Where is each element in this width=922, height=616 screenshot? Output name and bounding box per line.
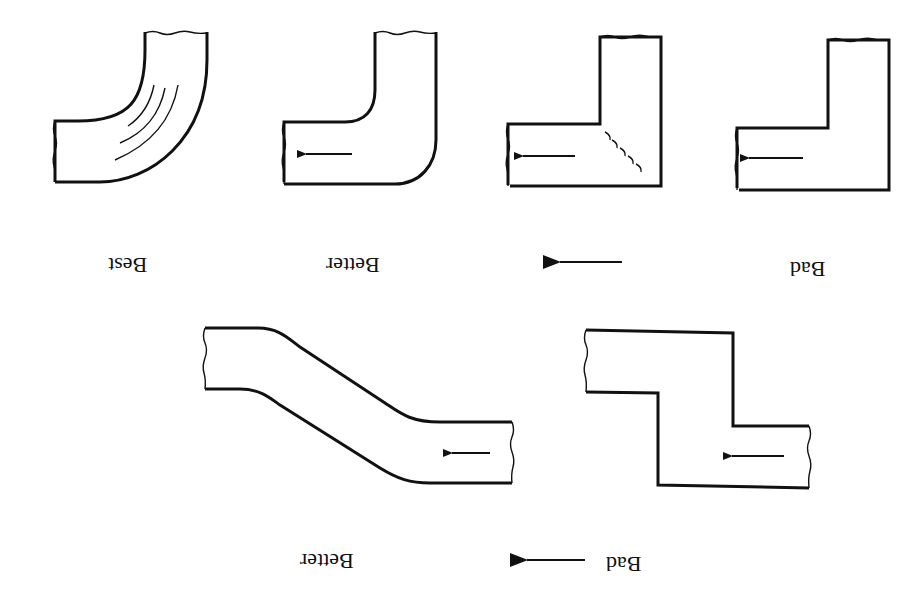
- offset-bad: [584, 330, 811, 488]
- duct-fittings-diagram: [0, 0, 922, 616]
- elbow-mitered-vanes: [506, 35, 661, 186]
- offset-better: [203, 328, 514, 483]
- label-bad-top: Bad: [790, 256, 825, 282]
- label-best: Best: [108, 252, 147, 278]
- elbow-better: [282, 31, 436, 184]
- elbow-bad: [735, 38, 889, 190]
- label-better-bottom: Better: [300, 548, 354, 574]
- label-bad-bottom: Bad: [606, 551, 641, 577]
- elbow-best: [53, 31, 207, 182]
- label-better-top: Better: [326, 252, 380, 278]
